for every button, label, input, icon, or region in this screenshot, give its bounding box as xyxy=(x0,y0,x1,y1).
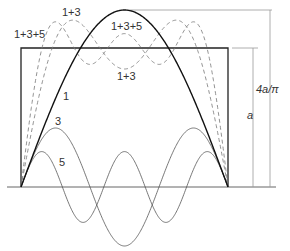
label-1-3-upper: 1+3 xyxy=(62,6,81,18)
label-harmonic-1: 1 xyxy=(63,90,69,102)
label-harmonic-5: 5 xyxy=(59,156,65,168)
label-1-3-5-left: 1+3+5 xyxy=(14,28,45,40)
fundamental-curve xyxy=(21,10,228,187)
label-harmonic-3: 3 xyxy=(55,115,61,127)
label-1-3-lower: 1+3 xyxy=(117,70,136,82)
label-1-3-5-right: 1+3+5 xyxy=(111,20,142,32)
fourier-square-wave-diagram: 1+3 1+3+5 1+3+5 1+3 1 3 5 4a/π a xyxy=(0,0,290,251)
label-a: a xyxy=(247,109,253,121)
label-4a-over-pi: 4a/π xyxy=(256,83,279,95)
